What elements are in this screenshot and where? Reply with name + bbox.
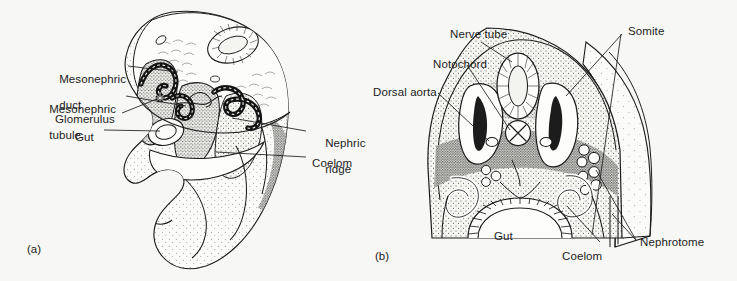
label-coelom-a: Coelom: [312, 157, 352, 170]
panel-caption-a: (a): [27, 243, 41, 255]
dorsal-aorta-left-b: [486, 138, 498, 147]
dorsal-aorta-right-b: [540, 138, 552, 147]
notochord-b: [506, 121, 531, 146]
nerve-tube-b: [497, 53, 539, 119]
panel-caption-b: (b): [375, 250, 389, 262]
label-gut-b: Gut: [494, 230, 513, 243]
label-somite: Somite: [628, 25, 664, 38]
label-nephrotome: Nephrotome: [640, 236, 704, 249]
figure-container: Mesonephric duct Mesonephric tubule Glom…: [0, 0, 737, 281]
label-nerve-tube: Nerve tube: [450, 28, 507, 41]
small-vesicle-a: [211, 76, 220, 82]
label-notochord: Notochord: [433, 58, 487, 71]
panel-a-drawing: [104, 11, 306, 268]
label-gut-a: Gut: [75, 131, 94, 144]
label-coelom-b: Coelom: [562, 250, 602, 263]
label-glomerulus: Glomerulus: [55, 113, 115, 126]
label-dorsal-aorta: Dorsal aorta: [373, 86, 437, 99]
